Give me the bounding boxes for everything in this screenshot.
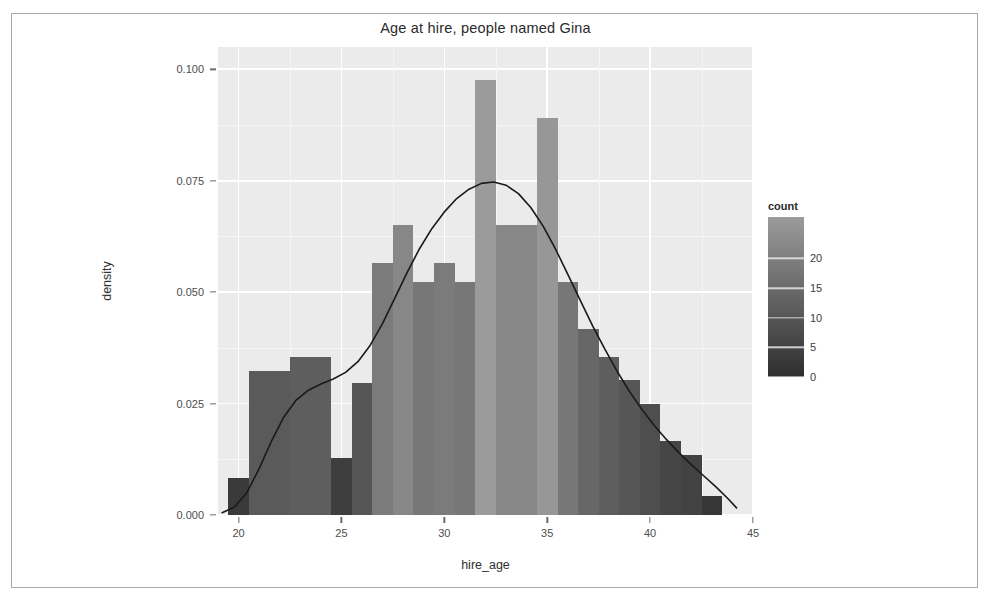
histogram-bar bbox=[578, 329, 599, 515]
histogram-bar bbox=[516, 225, 537, 515]
gridline-vertical-minor bbox=[702, 47, 703, 515]
histogram-bar bbox=[475, 80, 496, 515]
gridline-vertical bbox=[341, 47, 343, 515]
histogram-bar bbox=[681, 455, 702, 515]
y-tick-label: 0.075 bbox=[146, 175, 204, 187]
y-tick-mark bbox=[210, 403, 216, 404]
x-tick-label: 45 bbox=[747, 527, 759, 539]
histogram-bar bbox=[311, 357, 332, 515]
histogram-bar bbox=[434, 263, 455, 515]
legend-tick-label: 20 bbox=[810, 252, 822, 264]
x-tick-mark bbox=[649, 517, 650, 523]
histogram-bar bbox=[537, 118, 558, 515]
legend-tick-mark bbox=[768, 347, 804, 348]
legend-tick-mark bbox=[768, 317, 804, 318]
y-axis-title: density bbox=[100, 261, 114, 301]
histogram-bar bbox=[619, 380, 640, 515]
histogram-figure: Age at hire, people named Gina 0.0000.02… bbox=[0, 0, 990, 605]
legend-tick-mark bbox=[768, 376, 804, 377]
y-tick-label: 0.100 bbox=[146, 63, 204, 75]
x-tick-mark bbox=[238, 517, 239, 523]
y-tick-mark bbox=[210, 180, 216, 181]
legend-title: count bbox=[768, 200, 866, 212]
screenshot-page: Age at hire, people named Gina 0.0000.02… bbox=[0, 0, 990, 605]
histogram-bar bbox=[228, 478, 249, 515]
legend-tick-mark bbox=[768, 287, 804, 288]
x-tick-label: 20 bbox=[232, 527, 244, 539]
y-tick-mark bbox=[210, 291, 216, 292]
y-tick-label: 0.000 bbox=[146, 509, 204, 521]
histogram-bar bbox=[352, 383, 373, 515]
x-tick-mark bbox=[444, 517, 445, 523]
x-tick-label: 40 bbox=[644, 527, 656, 539]
histogram-bar bbox=[455, 282, 476, 515]
histogram-bar bbox=[249, 371, 270, 515]
y-tick-mark bbox=[210, 69, 216, 70]
plot-panel bbox=[218, 47, 753, 515]
legend-tick-label: 10 bbox=[810, 312, 822, 324]
histogram-bar bbox=[393, 225, 414, 515]
x-tick-label: 25 bbox=[335, 527, 347, 539]
histogram-bar bbox=[331, 458, 352, 515]
legend-tick-label: 15 bbox=[810, 282, 822, 294]
gridline-horizontal bbox=[218, 68, 753, 70]
histogram-bar bbox=[702, 496, 723, 515]
x-axis-title: hire_age bbox=[218, 558, 753, 572]
histogram-bar bbox=[413, 282, 434, 515]
legend-tick-mark bbox=[768, 258, 804, 259]
x-tick-mark bbox=[341, 517, 342, 523]
y-tick-mark bbox=[210, 514, 216, 515]
page-title: Age at hire, people named Gina bbox=[218, 20, 753, 36]
legend-tick-label: 0 bbox=[810, 371, 816, 383]
histogram-bar bbox=[558, 282, 579, 515]
x-tick-label: 35 bbox=[541, 527, 553, 539]
legend-tick-label: 5 bbox=[810, 341, 816, 353]
y-tick-label: 0.050 bbox=[146, 286, 204, 298]
histogram-bar bbox=[290, 357, 311, 515]
x-tick-mark bbox=[547, 517, 548, 523]
legend: count 05101520 bbox=[766, 200, 866, 377]
y-tick-label: 0.025 bbox=[146, 398, 204, 410]
histogram-bar bbox=[640, 404, 661, 515]
histogram-bar bbox=[599, 357, 620, 515]
histogram-bar bbox=[269, 371, 290, 515]
histogram-bar bbox=[660, 441, 681, 515]
legend-colorbar-group: 05101520 bbox=[766, 217, 866, 377]
histogram-bar bbox=[372, 263, 393, 515]
gridline-vertical bbox=[238, 47, 240, 515]
legend-colorbar bbox=[768, 217, 804, 377]
x-tick-mark bbox=[752, 517, 753, 523]
histogram-bar bbox=[496, 225, 517, 515]
gridline-vertical bbox=[752, 47, 753, 515]
x-tick-label: 30 bbox=[438, 527, 450, 539]
